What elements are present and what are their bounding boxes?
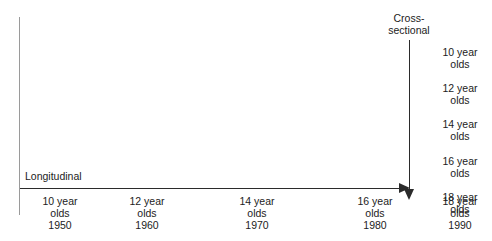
age-label: 10 year — [432, 46, 488, 58]
olds-label: olds — [432, 58, 488, 70]
longitudinal-arrow-shaft — [20, 188, 405, 189]
age-label: 10 year — [25, 195, 95, 207]
age-label: 16 year — [340, 195, 410, 207]
age-label: 14 year — [432, 118, 488, 130]
longitudinal-label: Longitudinal — [25, 170, 82, 182]
year-label: 1980 — [340, 219, 410, 231]
bottom-axis-group-1: 10 year olds 1950 — [25, 195, 95, 232]
bottom-axis-group-4: 16 year olds 1980 — [340, 195, 410, 232]
olds-label: olds — [432, 203, 488, 215]
year-label: 1950 — [25, 219, 95, 231]
olds-label: olds — [222, 207, 292, 219]
year-label: 1970 — [222, 219, 292, 231]
cross-sectional-arrow-shaft — [409, 40, 410, 192]
cohort-sequential-design-diagram: Longitudinal Cross- sectional 10 year ol… — [0, 0, 492, 241]
year-label: 1990 — [427, 219, 492, 231]
age-label: 16 year — [432, 155, 488, 167]
olds-label: olds — [432, 130, 488, 142]
age-label: 12 year — [432, 82, 488, 94]
left-frame-line — [19, 17, 20, 215]
age-label: 18 year — [432, 191, 488, 203]
bottom-axis-group-3: 14 year olds 1970 — [222, 195, 292, 232]
cross-sectional-label-line2: sectional — [383, 24, 435, 36]
olds-label: olds — [432, 94, 488, 106]
side-axis-group-1: 10 year olds — [432, 46, 488, 70]
cross-sectional-label-line1: Cross- — [383, 12, 435, 24]
olds-label: olds — [340, 207, 410, 219]
year-label: 1960 — [112, 219, 182, 231]
olds-label: olds — [432, 167, 488, 179]
bottom-axis-group-2: 12 year olds 1960 — [112, 195, 182, 232]
side-axis-group-2: 12 year olds — [432, 82, 488, 106]
cross-sectional-label: Cross- sectional — [383, 12, 435, 36]
olds-label: olds — [25, 207, 95, 219]
side-axis-group-4: 16 year olds — [432, 155, 488, 179]
age-label: 12 year — [112, 195, 182, 207]
side-axis-group-3: 14 year olds — [432, 118, 488, 142]
side-axis-group-5: 18 year olds — [432, 191, 488, 215]
olds-label: olds — [112, 207, 182, 219]
age-label: 14 year — [222, 195, 292, 207]
